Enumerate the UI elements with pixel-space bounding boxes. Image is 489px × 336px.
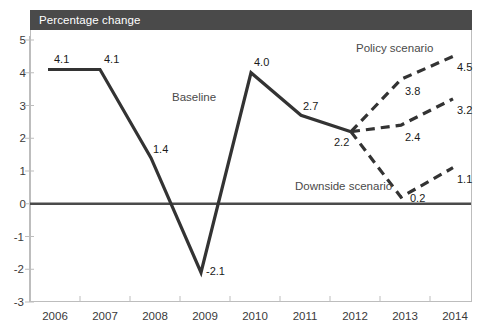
x-tick-label-2013: 2013 — [383, 310, 427, 322]
x-tick-label-2006: 2006 — [33, 310, 77, 322]
series-annotation-baseline: Baseline — [172, 91, 216, 103]
data-label-downside-2014: 1.1 — [457, 173, 472, 185]
data-label-baseline-2009: -2.1 — [206, 265, 225, 277]
x-tick-label-2011: 2011 — [283, 310, 327, 322]
x-tick-label-2010: 2010 — [233, 310, 277, 322]
chart-title: Percentage change — [30, 14, 140, 26]
y-tick-label-neg2: -2 — [4, 263, 24, 275]
x-tick-label-2012: 2012 — [333, 310, 377, 322]
data-label-baseline-2007: 4.1 — [104, 53, 119, 65]
y-tick-label-5: 5 — [6, 34, 26, 46]
plot-area — [30, 30, 472, 302]
data-label-baseline-projection-2014: 3.2 — [457, 104, 472, 116]
y-tick-label-0: 0 — [6, 198, 26, 210]
y-tick-label-neg3: -3 — [4, 296, 24, 308]
data-label-baseline-2006: 4.1 — [54, 53, 69, 65]
x-tick-label-2008: 2008 — [133, 310, 177, 322]
data-label-baseline-2010: 4.0 — [254, 56, 269, 68]
series-annotation-downside: Downside scenario — [295, 180, 392, 192]
chart-header-bar: Percentage change — [30, 10, 472, 30]
x-tick-label-2007: 2007 — [83, 310, 127, 322]
data-label-policy-2013: 3.8 — [405, 85, 420, 97]
y-tick-label-3: 3 — [6, 100, 26, 112]
data-label-baseline-2011: 2.7 — [303, 100, 318, 112]
chart-container: Percentage change 5 4 3 2 1 0 -1 -2 -3 2… — [0, 0, 489, 336]
data-label-baseline-2012: 2.2 — [334, 136, 349, 148]
series-annotation-policy: Policy scenario — [356, 42, 433, 54]
y-tick-label-neg1: -1 — [4, 231, 24, 243]
y-tick-label-2: 2 — [6, 132, 26, 144]
data-label-policy-2014: 4.5 — [457, 61, 472, 73]
x-tick-label-2009: 2009 — [183, 310, 227, 322]
data-label-baseline-2008: 1.4 — [153, 143, 168, 155]
data-label-downside-2013: 0.2 — [410, 192, 425, 204]
y-tick-label-1: 1 — [6, 165, 26, 177]
x-tick-label-2014: 2014 — [433, 310, 477, 322]
y-tick-label-4: 4 — [6, 67, 26, 79]
data-label-baseline-projection-2013: 2.4 — [405, 131, 420, 143]
